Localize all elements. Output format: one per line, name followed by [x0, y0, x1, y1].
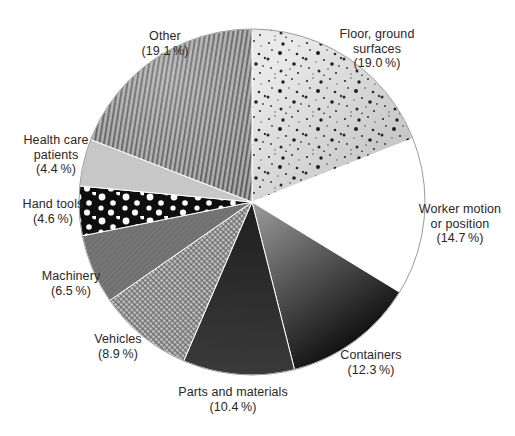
slice-percentage: (6.5 %) — [26, 284, 116, 299]
slice-percentage: (4.4 %) — [14, 162, 98, 177]
label-vehicles: Vehicles (8.9 %) — [78, 332, 158, 361]
slice-name: Hand tools — [9, 197, 97, 212]
label-floor-ground-surfaces: Floor, ground surfaces (19.0 %) — [334, 27, 420, 71]
label-hand-tools: Hand tools (4.6 %) — [9, 197, 97, 226]
slice-name: Health care patients — [14, 133, 98, 162]
slice-name: Machinery — [26, 269, 116, 284]
label-health-care-patients: Health care patients (4.4 %) — [14, 133, 98, 177]
slice-percentage: (10.4 %) — [168, 400, 298, 415]
slice-percentage: (19.0 %) — [334, 56, 420, 71]
slice-name: Containers — [326, 348, 416, 363]
slice-percentage: (8.9 %) — [78, 347, 158, 362]
label-machinery: Machinery (6.5 %) — [26, 269, 116, 298]
slice-percentage: (12.3 %) — [326, 363, 416, 378]
label-parts-and-materials: Parts and materials (10.4 %) — [168, 385, 298, 414]
slice-percentage: (19.1 %) — [123, 44, 207, 59]
slice-name: Other — [123, 29, 207, 44]
label-worker-motion-or-position: Worker motion or position (14.7 %) — [412, 202, 508, 246]
slice-percentage: (14.7 %) — [412, 231, 508, 246]
slice-name: Floor, ground surfaces — [334, 27, 420, 56]
slice-percentage: (4.6 %) — [9, 212, 97, 227]
pie-slices-group — [79, 29, 425, 375]
label-other: Other (19.1 %) — [123, 29, 207, 58]
label-containers: Containers (12.3 %) — [326, 348, 416, 377]
slice-name: Worker motion or position — [412, 202, 508, 231]
slice-name: Parts and materials — [168, 385, 298, 400]
pie-chart-figure: Floor, ground surfaces (19.0 %) Worker m… — [0, 0, 515, 436]
slice-name: Vehicles — [78, 332, 158, 347]
